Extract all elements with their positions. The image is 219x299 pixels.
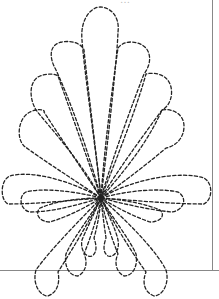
petal-top [82, 7, 118, 198]
petal-bottom-left-inner [82, 198, 101, 256]
petal-upper-right [101, 42, 150, 198]
petal-lower-right [101, 110, 184, 198]
cut-off-caption: … [120, 0, 130, 5]
pattern-canvas: … [0, 0, 219, 299]
fan-pattern-drawing [0, 0, 219, 299]
petal-side-left-1 [2, 174, 101, 204]
petal-lower-left [19, 110, 101, 198]
